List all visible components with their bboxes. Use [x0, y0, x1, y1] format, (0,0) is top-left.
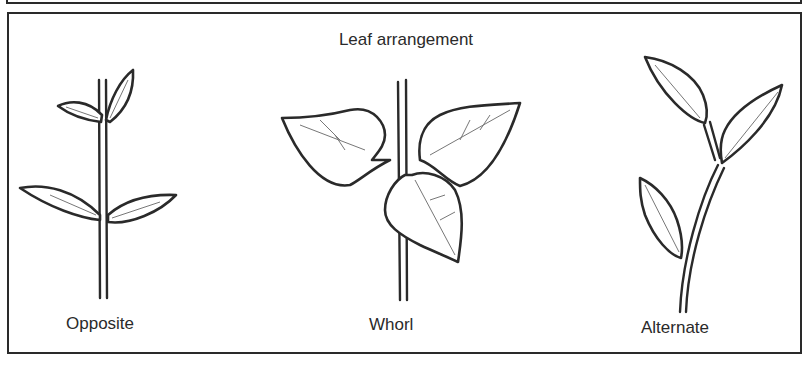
- whorl-left-leaf: [282, 109, 390, 185]
- alternate-stem: [680, 165, 724, 312]
- leaf-arrangement-illustration: [0, 0, 812, 366]
- whorl-lower-leaf: [385, 173, 462, 262]
- opposite-plant: [20, 70, 176, 298]
- label-opposite: Opposite: [66, 314, 134, 334]
- whorl-plant: [282, 80, 520, 300]
- label-alternate: Alternate: [641, 318, 709, 338]
- whorl-right-leaf: [419, 103, 520, 186]
- alternate-plant: [640, 57, 782, 312]
- opposite-upper-right-leaf: [106, 70, 133, 122]
- label-whorl: Whorl: [369, 315, 413, 335]
- opposite-lower-right-leaf: [108, 195, 176, 223]
- opposite-lower-left-leaf: [20, 186, 100, 220]
